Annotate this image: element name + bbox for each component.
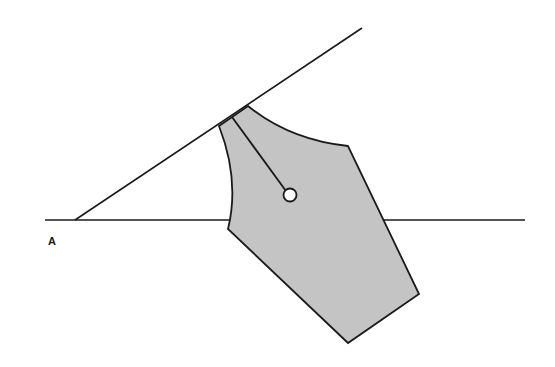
pen-nib-angle-diagram: A [0,0,555,367]
angle-label: A [48,235,56,247]
breather-hole [284,189,297,202]
